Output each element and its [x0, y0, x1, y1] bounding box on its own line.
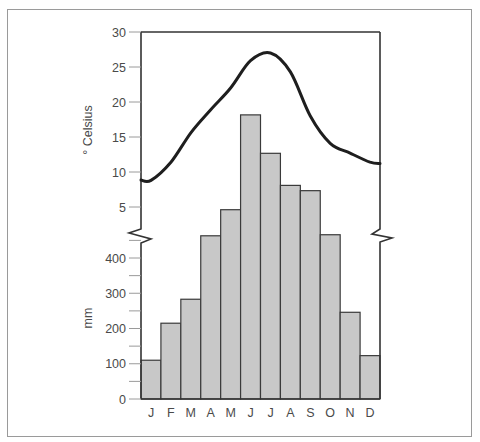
month-label: M — [186, 406, 196, 420]
month-labels: JFMAMJJASOND — [148, 406, 375, 420]
month-label: N — [346, 406, 355, 420]
month-label: F — [167, 406, 175, 420]
climate-chart: 51015202530 0100200300400 JFMAMJJASOND °… — [0, 0, 480, 442]
precipitation-bar — [161, 323, 181, 399]
precipitation-tick-label: 0 — [119, 393, 126, 407]
precipitation-tick-label: 100 — [105, 357, 126, 371]
precipitation-tick-label: 200 — [105, 322, 126, 336]
precipitation-tick-label: 300 — [105, 287, 126, 301]
precipitation-bar — [141, 360, 161, 399]
precipitation-bar — [181, 299, 201, 399]
month-label: J — [267, 406, 273, 420]
precipitation-axis-ticks: 0100200300400 — [105, 240, 141, 406]
month-label: S — [306, 406, 314, 420]
precipitation-bar — [261, 153, 281, 399]
precipitation-bar — [320, 235, 340, 399]
precipitation-axis-title: mm — [81, 308, 95, 329]
right-axis — [372, 32, 392, 399]
temperature-tick-label: 15 — [112, 131, 126, 145]
temperature-axis-title: ° Celsius — [81, 105, 95, 154]
month-label: O — [325, 406, 335, 420]
temperature-tick-label: 20 — [112, 96, 126, 110]
precipitation-bar — [340, 312, 360, 399]
month-label: A — [207, 406, 216, 420]
temperature-axis-ticks: 51015202530 — [112, 26, 141, 215]
precipitation-tick-label: 400 — [105, 252, 126, 266]
precipitation-bar — [241, 115, 261, 399]
temperature-tick-label: 30 — [112, 26, 126, 40]
precipitation-bar — [201, 236, 221, 399]
left-axis — [129, 32, 151, 399]
month-label: J — [148, 406, 154, 420]
temperature-tick-label: 5 — [119, 201, 126, 215]
precipitation-bar — [221, 210, 241, 399]
month-label: D — [365, 406, 374, 420]
temperature-tick-label: 25 — [112, 61, 126, 75]
precipitation-bar — [300, 191, 320, 399]
month-label: M — [225, 406, 235, 420]
precipitation-bar — [360, 356, 380, 399]
month-label: A — [286, 406, 295, 420]
precipitation-bars — [141, 115, 380, 399]
precipitation-bar — [280, 185, 300, 399]
temperature-tick-label: 10 — [112, 166, 126, 180]
month-label: J — [247, 406, 253, 420]
